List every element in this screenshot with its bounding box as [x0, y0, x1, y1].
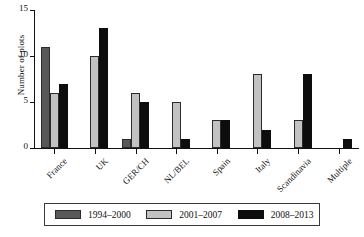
x-tick-italy — [257, 149, 258, 154]
y-axis-title: Number of plots — [16, 0, 26, 130]
bar — [140, 102, 149, 148]
plot-area: 051015 — [34, 10, 359, 148]
legend-label: 2008–2013 — [271, 210, 314, 220]
chart-legend: 1994–20002001–20072008–2013 — [44, 203, 320, 226]
legend-item[interactable]: 1994–2000 — [45, 210, 136, 220]
bar — [262, 130, 271, 148]
legend-swatch — [55, 210, 81, 219]
legend-label: 1994–2000 — [88, 210, 131, 220]
bar — [59, 84, 68, 148]
bar-group — [244, 10, 271, 148]
x-axis-line — [34, 148, 359, 149]
bar-group — [203, 10, 230, 148]
bar — [90, 56, 99, 148]
bar — [172, 102, 181, 148]
bar-group — [325, 10, 352, 148]
legend-swatch — [146, 210, 172, 219]
x-tick-multiple — [339, 149, 340, 154]
bar — [99, 28, 108, 148]
bar-group — [81, 10, 108, 148]
legend-label: 2001–2007 — [179, 210, 222, 220]
bar — [303, 74, 312, 148]
bar — [343, 139, 352, 148]
bar-group — [163, 10, 190, 148]
legend-item[interactable]: 2001–2007 — [136, 210, 227, 220]
bar-group — [41, 10, 68, 148]
bar — [122, 139, 131, 148]
bar — [294, 120, 303, 148]
bar — [41, 47, 50, 148]
y-tick-0 — [30, 148, 35, 149]
legend-swatch — [238, 210, 264, 219]
bar-chart-figure: Number of plots 051015 FranceUKGER/CHNL/… — [0, 0, 364, 237]
x-tick-nl-bel — [176, 149, 177, 154]
x-tick-uk — [95, 149, 96, 154]
y-tick-5 — [30, 102, 35, 103]
x-tick-france — [54, 149, 55, 154]
y-axis-line — [34, 10, 35, 149]
y-tick-label-5: 5 — [8, 95, 28, 105]
x-tick-ger-ch — [136, 149, 137, 154]
bar — [221, 120, 230, 148]
bar-group — [122, 10, 149, 148]
bar-group — [285, 10, 312, 148]
x-tick-spain — [217, 149, 218, 154]
y-tick-15 — [30, 10, 35, 11]
bar — [131, 93, 140, 148]
bar — [181, 139, 190, 148]
y-tick-label-0: 0 — [8, 141, 28, 151]
y-tick-label-10: 10 — [8, 49, 28, 59]
legend-item[interactable]: 2008–2013 — [228, 210, 319, 220]
y-tick-label-15: 15 — [8, 3, 28, 13]
bar — [253, 74, 262, 148]
x-tick-scandinavia — [298, 149, 299, 154]
bar — [212, 120, 221, 148]
y-tick-10 — [30, 56, 35, 57]
bar — [50, 93, 59, 148]
